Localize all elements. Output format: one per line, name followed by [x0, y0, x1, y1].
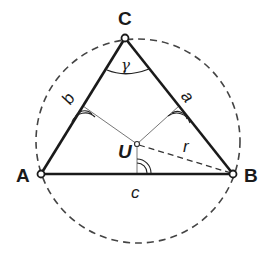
diagram-canvas: A B C a b c U r γ — [0, 0, 276, 259]
side-b — [41, 38, 125, 174]
label-circumcenter: U — [118, 141, 133, 162]
label-side-a: a — [177, 87, 198, 106]
label-side-c: c — [131, 183, 140, 202]
circumcircle-diagram: A B C a b c U r γ — [0, 0, 276, 259]
vertex-a-point — [38, 171, 45, 178]
circumcenter-point — [135, 142, 140, 147]
perp-bisector-ac — [83, 106, 137, 144]
vertex-b-point — [230, 171, 237, 178]
side-a — [125, 38, 233, 174]
label-vertex-a: A — [16, 165, 30, 186]
label-side-b: b — [58, 89, 79, 107]
perp-bisector-bc — [137, 106, 179, 144]
label-vertex-b: B — [244, 165, 258, 186]
label-radius: r — [183, 137, 190, 156]
right-angle-marker-ab — [137, 159, 151, 173]
label-angle-gamma: γ — [121, 56, 130, 74]
vertex-c-point — [122, 35, 129, 42]
circumcircle — [36, 39, 240, 243]
label-vertex-c: C — [118, 8, 132, 29]
